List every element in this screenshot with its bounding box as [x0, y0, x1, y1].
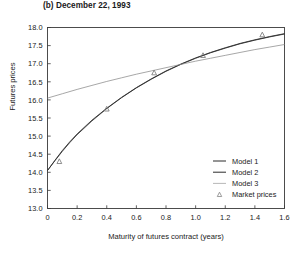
legend-label: Market prices: [232, 190, 277, 199]
svg-text:14.5: 14.5: [28, 150, 42, 159]
svg-text:13.5: 13.5: [28, 186, 42, 195]
series-line-model-1: [48, 34, 285, 170]
svg-text:0.8: 0.8: [161, 213, 171, 222]
legend-label: Model 3: [232, 179, 258, 188]
svg-text:17.5: 17.5: [28, 41, 42, 50]
chart-legend: Model 1Model 2Model 3Market prices: [213, 157, 277, 200]
market-price-marker: [260, 32, 265, 37]
series-line-model-2: [48, 34, 285, 171]
svg-text:0.6: 0.6: [131, 213, 141, 222]
svg-text:0.2: 0.2: [72, 213, 82, 222]
svg-text:0.4: 0.4: [102, 213, 112, 222]
svg-text:16.5: 16.5: [28, 78, 42, 87]
market-price-marker: [57, 159, 62, 164]
svg-text:15.0: 15.0: [28, 132, 42, 141]
svg-text:1.4: 1.4: [250, 213, 260, 222]
legend-label: Model 2: [232, 168, 258, 177]
svg-text:18.0: 18.0: [28, 23, 42, 32]
svg-text:1.6: 1.6: [279, 213, 289, 222]
svg-text:15.5: 15.5: [28, 114, 42, 123]
svg-text:13.0: 13.0: [28, 204, 42, 213]
svg-text:1.0: 1.0: [190, 213, 200, 222]
data-series: [48, 32, 285, 170]
plot-area: 13.013.514.014.515.015.516.016.517.017.5…: [0, 0, 300, 258]
svg-text:1.2: 1.2: [220, 213, 230, 222]
svg-text:17.0: 17.0: [28, 59, 42, 68]
svg-text:0: 0: [45, 213, 49, 222]
svg-text:16.0: 16.0: [28, 96, 42, 105]
legend-label: Model 1: [232, 157, 258, 166]
legend-swatch-triangle: [217, 192, 221, 196]
chart-figure: (b) December 22, 1993 Futures prices Mat…: [0, 0, 300, 258]
svg-text:14.0: 14.0: [28, 168, 42, 177]
